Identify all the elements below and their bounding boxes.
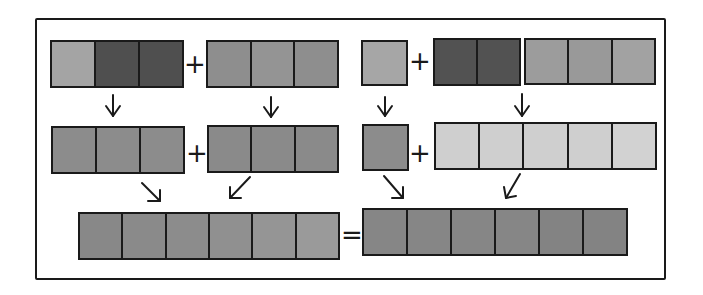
arrow-down-left-icon bbox=[504, 174, 520, 198]
arrow-down-icon bbox=[264, 97, 278, 117]
arrow-down-icon bbox=[378, 97, 392, 116]
arrow-down-icon bbox=[106, 95, 120, 116]
arrow-down-icon bbox=[515, 94, 529, 116]
arrows-layer bbox=[0, 0, 703, 295]
arrow-down-right-icon bbox=[142, 183, 160, 201]
arrow-down-right-icon bbox=[384, 176, 403, 198]
arrow-down-left-icon bbox=[230, 177, 250, 198]
